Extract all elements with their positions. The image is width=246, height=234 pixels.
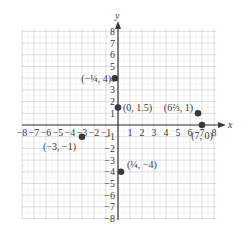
data-point <box>115 104 122 111</box>
x-tick-label: 4 <box>164 127 169 138</box>
x-tick-label: 1 <box>128 127 133 138</box>
y-tick-label: −2 <box>104 143 115 154</box>
y-tick-label: −7 <box>104 201 115 212</box>
y-tick-label: 5 <box>110 61 115 72</box>
y-tick-label: −3 <box>104 155 115 166</box>
x-tick-label: 2 <box>140 127 145 138</box>
data-points: (−¼, 4)(0, 1.5)(6⅔, 1)(7, 0)(−3, −1)(¼, … <box>43 73 213 175</box>
y-tick-label: −5 <box>104 178 115 189</box>
grid-lines <box>22 29 216 219</box>
point-label: (−3, −1) <box>43 141 76 153</box>
point-label: (6⅔, 1) <box>164 102 193 114</box>
x-tick-label: −7 <box>29 127 40 138</box>
y-axis-arrow-icon <box>115 21 121 29</box>
x-tick-label: −8 <box>17 127 28 138</box>
coordinate-plane: x y −8−7−6−5−4−3−2−11234567887654321−1−2… <box>0 0 246 234</box>
point-label: (0, 1.5) <box>123 102 152 114</box>
x-axis-arrow-icon <box>218 122 226 128</box>
y-tick-label: 1 <box>110 108 115 119</box>
x-tick-label: 5 <box>176 127 181 138</box>
x-tick-label: −6 <box>41 127 52 138</box>
data-point <box>118 169 125 176</box>
y-tick-label: −1 <box>104 131 115 142</box>
point-label: (−¼, 4) <box>81 73 111 85</box>
data-point <box>199 122 206 129</box>
y-tick-label: −4 <box>104 166 115 177</box>
x-tick-label: 3 <box>152 127 157 138</box>
y-axis-label: y <box>114 10 120 21</box>
y-tick-label: 6 <box>110 49 115 60</box>
y-tick-label: 2 <box>110 96 115 107</box>
y-tick-label: 7 <box>110 38 115 49</box>
data-point <box>195 110 202 117</box>
point-label: (7, 0) <box>191 130 213 142</box>
x-tick-label: −2 <box>89 127 100 138</box>
y-tick-label: −8 <box>104 213 115 224</box>
y-tick-label: 8 <box>110 26 115 37</box>
data-point <box>79 133 86 140</box>
y-tick-label: −6 <box>104 190 115 201</box>
point-label: (¼, −4) <box>127 159 157 171</box>
x-tick-label: −4 <box>65 127 76 138</box>
x-axis-label: x <box>227 119 233 130</box>
axes: x y <box>22 10 233 220</box>
data-point <box>112 75 119 82</box>
y-tick-label: 3 <box>110 84 115 95</box>
x-tick-label: −5 <box>53 127 64 138</box>
plane-svg: x y −8−7−6−5−4−3−2−11234567887654321−1−2… <box>0 0 246 234</box>
